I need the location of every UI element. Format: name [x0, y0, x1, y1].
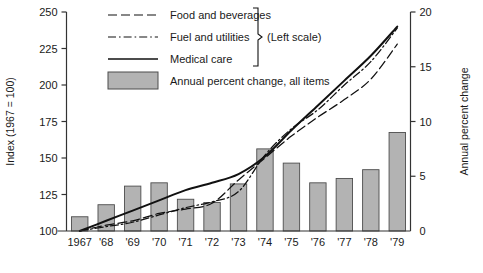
- x-tick-label-73: '73: [231, 236, 245, 248]
- left-scale-note: (Left scale): [267, 31, 321, 43]
- bar-77: [336, 178, 352, 231]
- x-tick-label-79: '79: [390, 236, 404, 248]
- x-tick-label-68: '68: [99, 236, 113, 248]
- left-tick-label-175: 175: [39, 116, 57, 128]
- left-tick-label-250: 250: [39, 6, 57, 18]
- right-tick-label-5: 5: [420, 170, 426, 182]
- right-tick-label-20: 20: [420, 6, 432, 18]
- x-tick-label-70: '70: [152, 236, 166, 248]
- bar-79: [389, 132, 405, 231]
- right-tick-label-10: 10: [420, 116, 432, 128]
- legend-label-0: Food and beverages: [170, 9, 271, 21]
- left-tick-label-150: 150: [39, 152, 57, 164]
- x-tick-label-69: '69: [125, 236, 139, 248]
- x-tick-label-75: '75: [284, 236, 298, 248]
- legend-label-3: Annual percent change, all items: [170, 75, 330, 87]
- left-tick-label-200: 200: [39, 79, 57, 91]
- right-tick-label-15: 15: [420, 61, 432, 73]
- x-tick-label-76: '76: [311, 236, 325, 248]
- legend-label-2: Medical care: [170, 53, 232, 65]
- legend-label-1: Fuel and utilities: [170, 31, 250, 43]
- bar-71: [177, 199, 193, 231]
- x-tick-label-78: '78: [364, 236, 378, 248]
- x-tick-label-74: '74: [258, 236, 272, 248]
- left-tick-label-125: 125: [39, 189, 57, 201]
- bar-72: [204, 203, 220, 231]
- x-tick-label-77: '77: [337, 236, 351, 248]
- bar-78: [363, 170, 379, 231]
- left-axis-title: Index (1967 = 100): [4, 77, 16, 165]
- x-tick-label-72: '72: [205, 236, 219, 248]
- x-tick-label-1967: 1967: [67, 236, 91, 248]
- bar-70: [151, 183, 167, 231]
- bar-75: [283, 163, 299, 231]
- left-tick-label-225: 225: [39, 43, 57, 55]
- x-tick-label-71: '71: [178, 236, 192, 248]
- bar-73: [230, 184, 246, 231]
- right-axis-title: Annual percent change: [458, 67, 470, 175]
- chart-container: 100125150175200225250051015201967'68'69'…: [0, 0, 483, 273]
- right-tick-label-0: 0: [420, 225, 426, 237]
- economic-index-chart: 100125150175200225250051015201967'68'69'…: [0, 0, 483, 273]
- left-tick-label-100: 100: [39, 225, 57, 237]
- legend-swatch-filled-rect-swatch: [108, 72, 158, 89]
- bar-76: [310, 183, 326, 231]
